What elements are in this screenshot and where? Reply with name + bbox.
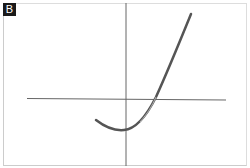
curve xyxy=(96,14,191,130)
plot-canvas xyxy=(0,0,250,168)
